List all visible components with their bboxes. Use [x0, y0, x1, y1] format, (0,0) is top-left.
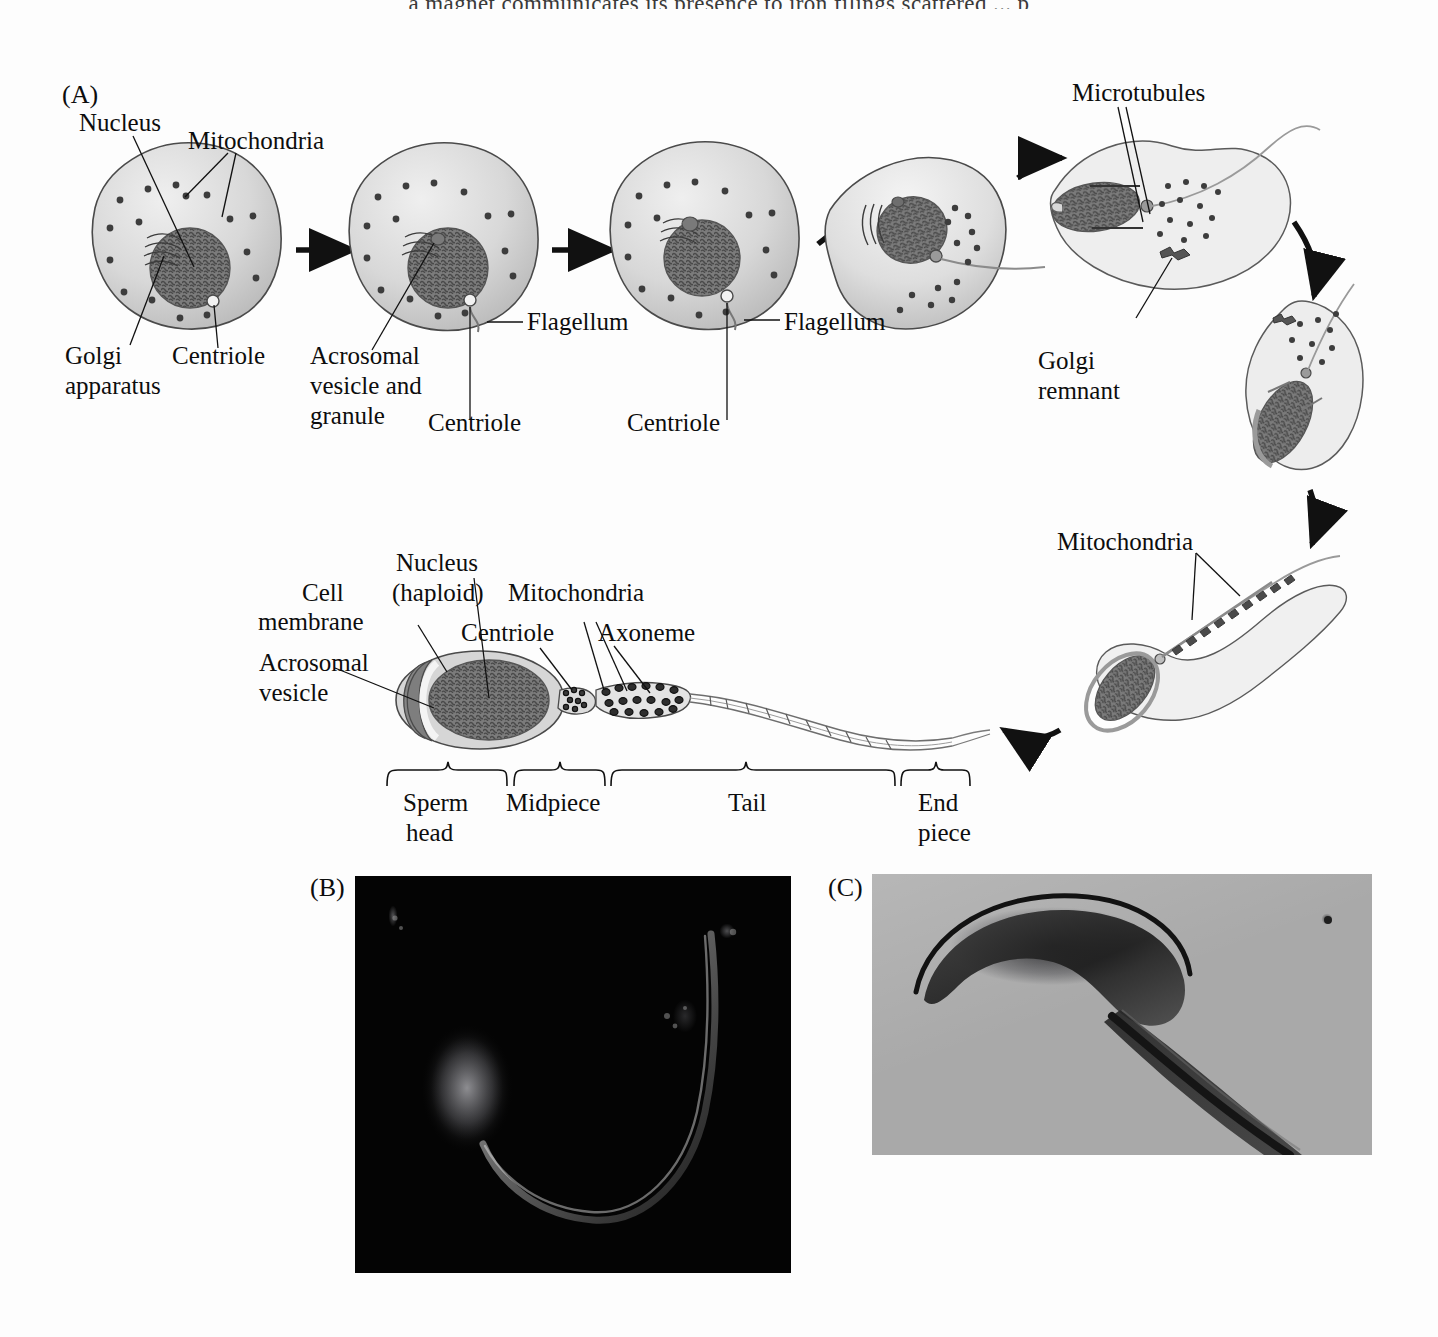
- panel-b-tag: (B): [310, 873, 345, 903]
- stage-5-spermatid: [1049, 126, 1320, 289]
- label-microtubules: Microtubules: [1072, 78, 1205, 108]
- stage-6-spermatid: [1241, 284, 1363, 472]
- label-mitochondria-stage7: Mitochondria: [1057, 527, 1193, 557]
- label-nucleus-haploid-line2: (haploid): [392, 578, 484, 608]
- label-axoneme: Axoneme: [598, 618, 695, 648]
- label-flagellum-stage3: Flagellum: [784, 307, 885, 337]
- stage-3-spermatid: [610, 142, 799, 330]
- cropped-body-text: a magnet communicates its presence to ir…: [0, 0, 1438, 9]
- region-label-end-piece-line1: End: [918, 788, 958, 818]
- figure-page: a magnet communicates its presence to ir…: [0, 0, 1438, 1337]
- flagellum-stage6: [1308, 284, 1354, 370]
- flagellum-stage2: [470, 306, 479, 332]
- label-golgi-apparatus-line1: Golgi: [65, 341, 122, 371]
- stage-1-leaders: [130, 136, 236, 348]
- flagellum-stage4: [941, 259, 1045, 269]
- panel-c-tag: (C): [828, 873, 863, 903]
- label-centriole-mature: Centriole: [461, 618, 554, 648]
- stage-1-spermatid: [92, 143, 281, 329]
- region-label-tail: Tail: [728, 788, 767, 818]
- stage-2-spermatid: [349, 143, 538, 332]
- label-golgi-remnant-line2: remnant: [1038, 376, 1120, 406]
- arrow-3: [818, 215, 903, 244]
- arrow-4: [1018, 158, 1062, 178]
- region-label-end-piece-line2: piece: [918, 818, 971, 848]
- label-nucleus-haploid-line1: Nucleus: [396, 548, 478, 578]
- panel-c-light-micrograph: [872, 874, 1372, 1155]
- label-acrosomal-vesicle-line2: vesicle: [259, 678, 328, 708]
- label-nucleus-stage1: Nucleus: [79, 108, 161, 138]
- label-centriole-stage1: Centriole: [172, 341, 265, 371]
- label-cell-membrane-line1: Cell: [302, 578, 344, 608]
- mature-sperm-diagram: [396, 651, 990, 750]
- region-brackets: [387, 762, 970, 786]
- label-acrosomal-line2: vesicle and: [310, 371, 422, 401]
- label-centriole-stage3: Centriole: [627, 408, 720, 438]
- label-acrosomal-line3: granule: [310, 401, 385, 431]
- panel-a-tag: (A): [62, 80, 98, 110]
- label-mitochondria-mature: Mitochondria: [508, 578, 644, 608]
- label-flagellum-stage2: Flagellum: [527, 307, 628, 337]
- region-label-sperm-head-line1: Sperm: [403, 788, 468, 818]
- stage-3-leaders: [727, 303, 780, 420]
- arrow-6: [1310, 490, 1316, 544]
- label-cell-membrane-line2: membrane: [258, 607, 364, 637]
- label-mitochondria-stage1: Mitochondria: [188, 126, 324, 156]
- label-centriole-stage2: Centriole: [428, 408, 521, 438]
- label-golgi-apparatus-line2: apparatus: [65, 371, 161, 401]
- label-acrosomal-vesicle-line1: Acrosomal: [259, 648, 369, 678]
- label-golgi-remnant-line1: Golgi: [1038, 346, 1095, 376]
- panel-b-fluorescence-micrograph: [355, 876, 791, 1273]
- flagellum-stage3: [727, 302, 736, 330]
- stage-7-leaders: [1192, 553, 1240, 620]
- stage-7-spermatozoon: [1072, 556, 1347, 744]
- arrow-7: [1004, 730, 1060, 738]
- stage-5-leaders: [1118, 107, 1172, 318]
- flagellum-stage7: [1162, 556, 1340, 656]
- label-acrosomal-line1: Acrosomal: [310, 341, 420, 371]
- arrow-5: [1294, 222, 1316, 296]
- stage-4-spermatid: [825, 158, 1045, 329]
- region-label-sperm-head-line2: head: [406, 818, 453, 848]
- region-label-midpiece: Midpiece: [506, 788, 600, 818]
- flagellum-stage5: [1152, 126, 1320, 206]
